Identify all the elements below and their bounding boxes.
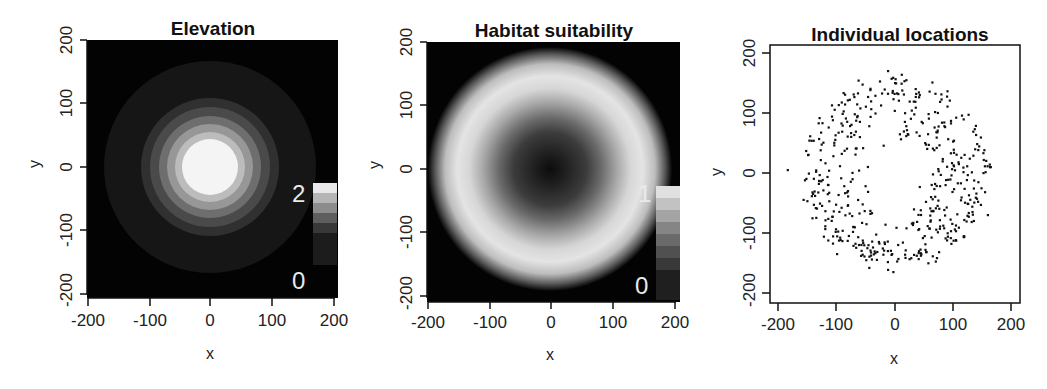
locations-ytick-200: 200 [740,39,760,67]
data-point [934,111,936,113]
data-point [844,103,846,105]
data-point [857,236,859,238]
habitat-xtick-200: 200 [661,313,689,333]
data-point [972,155,974,157]
data-point [943,227,945,229]
data-point [827,193,829,195]
data-point [862,240,864,242]
data-point [963,235,965,237]
data-point [904,257,906,259]
data-point [927,262,929,264]
data-point [806,200,808,202]
data-point [850,132,852,134]
data-point [938,251,940,253]
data-point [805,150,807,152]
data-point [884,88,886,90]
data-point [936,147,938,149]
data-point [827,218,829,220]
data-point [815,169,817,171]
data-point [822,189,824,191]
data-point [919,186,921,188]
data-point [845,117,847,119]
data-point [818,180,820,182]
data-point [803,199,805,201]
data-point [809,135,811,137]
data-point [826,176,828,178]
data-point [980,136,982,138]
data-point [840,239,842,241]
data-point [818,183,820,185]
data-point [848,235,850,237]
data-point [804,179,806,181]
data-point [813,178,815,180]
data-point [899,133,901,135]
data-point [818,122,820,124]
data-point [871,258,873,260]
data-point [913,208,915,210]
data-point [966,165,968,167]
data-point [971,211,973,213]
data-point [935,261,937,263]
data-point [859,107,861,109]
data-point [869,210,871,212]
data-point [857,115,859,117]
data-point [844,214,846,216]
data-point [859,121,861,123]
data-point [913,101,915,103]
data-point [946,206,948,208]
data-point [832,243,834,245]
data-point [974,128,976,130]
data-point [964,154,966,156]
data-point [916,255,918,257]
data-point [938,208,940,210]
data-point [955,117,957,119]
data-point [819,174,821,176]
data-point [815,217,817,219]
data-point [931,237,933,239]
data-point [946,96,948,98]
data-point [840,177,842,179]
data-point [915,96,917,98]
data-point [964,202,966,204]
data-point [960,199,962,201]
data-point [869,89,871,91]
data-point [887,250,889,252]
data-point [953,152,955,154]
data-point [807,154,809,156]
data-point [943,121,945,123]
data-point [949,100,951,102]
data-point [822,142,824,144]
data-point [920,214,922,216]
data-point [847,190,849,192]
data-point [937,205,939,207]
data-point [951,191,953,193]
data-point [929,215,931,217]
data-point [854,243,856,245]
data-point [919,135,921,137]
data-point [984,165,986,167]
data-point [950,237,952,239]
data-point [824,162,826,164]
data-point [950,174,952,176]
data-point [934,183,936,185]
data-point [861,250,863,252]
data-point [890,250,892,252]
data-point [854,113,856,115]
data-point [975,193,977,195]
data-point [975,134,977,136]
data-point [828,170,830,172]
data-point [971,206,973,208]
data-point [934,196,936,198]
data-point [834,109,836,111]
data-point [924,249,926,251]
data-point [950,122,952,124]
data-point [897,244,899,246]
data-point [881,92,883,94]
data-point [898,100,900,102]
data-point [973,202,975,204]
data-point [901,83,903,85]
data-point [905,249,907,251]
data-point [928,118,930,120]
data-point [820,180,822,182]
data-point [841,131,843,133]
